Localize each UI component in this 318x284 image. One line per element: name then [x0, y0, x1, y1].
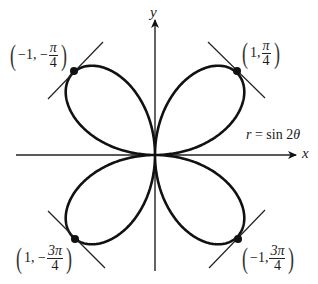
close-paren: ): [61, 40, 67, 70]
fraction: π 4: [49, 41, 58, 70]
point-label-upper-right: ( 1, π 4 ): [240, 38, 282, 68]
open-paren: (: [10, 40, 16, 70]
fraction-numerator: 3π: [47, 244, 63, 259]
equation-rhs: = sin 2: [255, 127, 293, 142]
point-label-lower-right: ( −1, 3π 4 ): [240, 243, 296, 273]
point-dot-upper-left: [70, 67, 78, 75]
point-dot-lower-right: [234, 235, 242, 243]
fraction-numerator: π: [262, 39, 271, 54]
point-prefix: −1,: [250, 250, 268, 266]
equation-label: r = sin 2θ: [246, 127, 300, 143]
fraction-denominator: 4: [274, 259, 281, 273]
equation-lhs: r: [246, 127, 251, 142]
fraction-denominator: 4: [50, 56, 57, 70]
fraction: π 4: [262, 39, 271, 68]
point-prefix: 1,: [250, 45, 261, 61]
fraction-numerator: π: [49, 41, 58, 56]
open-paren: (: [16, 243, 22, 273]
fraction-numerator: 3π: [269, 244, 285, 259]
open-paren: (: [242, 243, 248, 273]
fraction: 3π 4: [269, 244, 285, 273]
fraction: 3π 4: [47, 244, 63, 273]
y-axis-label: y: [150, 4, 157, 21]
point-label-upper-left: ( −1, − π 4 ): [8, 40, 69, 70]
polar-rose-diagram: y x r = sin 2θ ( −1, − π 4 ) ( 1, π 4 ) …: [0, 0, 318, 284]
fraction-denominator: 4: [263, 54, 270, 68]
fraction-denominator: 4: [51, 259, 58, 273]
close-paren: ): [288, 243, 294, 273]
point-label-lower-left: ( 1, − 3π 4 ): [14, 243, 74, 273]
equation-var: θ: [293, 127, 300, 142]
close-paren: ): [274, 38, 280, 68]
point-prefix: −1, −: [18, 47, 48, 63]
open-paren: (: [242, 38, 248, 68]
x-axis-label: x: [302, 145, 309, 162]
point-dot-lower-left: [71, 235, 79, 243]
point-dot-upper-right: [233, 67, 241, 75]
point-prefix: 1, −: [24, 250, 46, 266]
close-paren: ): [66, 243, 72, 273]
